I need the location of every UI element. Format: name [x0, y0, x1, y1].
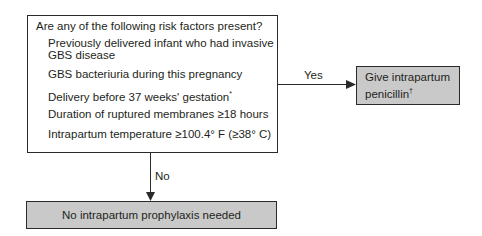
- yes-text-line2: penicillin†: [365, 84, 459, 101]
- factor-preterm: Delivery before 37 weeks' gestation*: [48, 88, 232, 103]
- give-penicillin-box: Give intrapartum penicillin†: [356, 66, 460, 105]
- yes-text-penicillin: penicillin: [365, 88, 409, 100]
- yes-label: Yes: [304, 69, 323, 81]
- yes-text-line1: Give intrapartum: [365, 71, 459, 84]
- no-arrow-line: [150, 153, 151, 193]
- no-prophylaxis-box: No intrapartum prophylaxis needed: [26, 201, 277, 229]
- no-label: No: [155, 170, 170, 182]
- yes-arrowhead-icon: [346, 80, 356, 89]
- factor-temperature: Intrapartum temperature ≥100.4° F (≥38° …: [48, 128, 271, 141]
- risk-question: Are any of the following risk factors pr…: [36, 20, 262, 32]
- yes-arrow-line: [277, 84, 349, 85]
- dagger-mark: †: [409, 87, 413, 94]
- footnote-mark: *: [229, 90, 232, 97]
- factor-preterm-text: Delivery before 37 weeks' gestation: [48, 91, 229, 103]
- risk-factors-box: Are any of the following risk factors pr…: [27, 15, 278, 153]
- no-arrowhead-icon: [146, 192, 155, 201]
- factor-bacteriuria: GBS bacteriuria during this pregnancy: [48, 68, 242, 81]
- factor-prior-infant: Previously delivered infant who had inva…: [48, 37, 274, 50]
- factor-prior-infant-cont: GBS disease: [48, 49, 115, 62]
- factor-rupture: Duration of ruptured membranes ≥18 hours: [48, 108, 268, 121]
